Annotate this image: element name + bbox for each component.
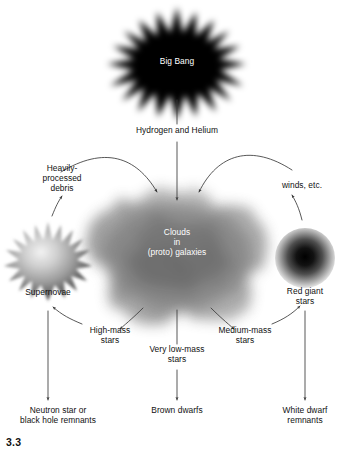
stellar-lifecycle-diagram — [0, 0, 354, 453]
supernova-shape — [4, 222, 92, 301]
red-giant-shape — [275, 228, 335, 288]
arrow-supernovae-to-debris — [52, 196, 62, 216]
arrow-winds-to-clouds — [199, 155, 292, 192]
arrow-redgiant-to-winds — [292, 195, 302, 220]
big-bang-shape — [107, 7, 246, 120]
arrow-high-mass-to-supernovae — [53, 307, 82, 324]
arrow-debris-to-clouds — [61, 157, 157, 192]
arrow-medium-mass-to-redgiant — [272, 306, 300, 324]
clouds-shape — [86, 189, 270, 322]
figure-number: 3.3 — [6, 436, 21, 448]
